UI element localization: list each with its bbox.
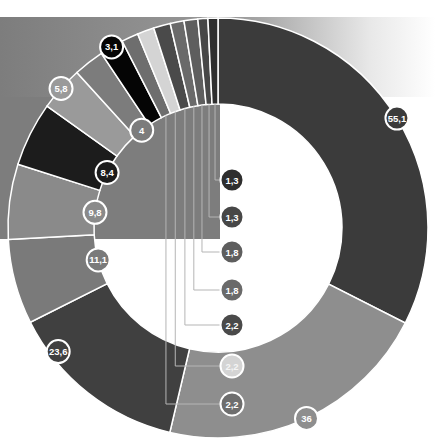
value-text: 1,8 [225,285,238,296]
value-text: 1,3 [225,175,238,186]
value-text: 8,4 [100,167,114,178]
value-label: 1,3 [221,169,244,192]
value-label: 36 [295,407,318,430]
value-text: 2,2 [225,361,238,372]
value-text: 36 [301,413,312,424]
value-text: 1,8 [225,247,238,258]
value-label: 23,6 [47,340,70,363]
value-text: 55,1 [388,113,407,124]
value-text: 23,6 [49,346,68,357]
value-text: 2,2 [225,399,238,410]
value-label: 1,3 [221,206,244,229]
value-label: 55,1 [385,107,408,130]
value-label: 5,8 [50,77,73,100]
value-label: 2,2 [221,355,244,378]
value-text: 4 [139,125,145,136]
value-text: 11,1 [89,254,108,265]
donut-chart: 55,13623,611,19,88,45,843,12,22,22,21,81… [0,0,435,443]
value-text: 2,2 [225,320,238,331]
value-label: 9,8 [83,201,106,224]
value-text: 5,8 [54,83,67,94]
value-text: 9,8 [88,207,101,218]
value-label: 8,4 [96,161,119,184]
value-text: 1,3 [225,212,238,223]
value-label: 1,8 [221,279,244,302]
value-label: 2,2 [221,314,244,337]
value-label: 4 [130,119,153,142]
value-label: 11,1 [87,248,110,271]
value-label: 2,2 [221,393,244,416]
value-text: 3,1 [105,41,119,52]
donut-chart-svg: 55,13623,611,19,88,45,843,12,22,22,21,81… [0,0,435,443]
value-label: 1,8 [221,241,244,264]
value-label: 3,1 [100,35,123,58]
donut-slice [170,284,405,438]
